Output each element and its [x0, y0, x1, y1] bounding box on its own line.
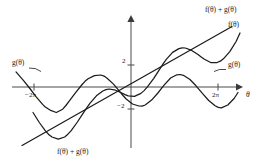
label-g-left: g(θ) [12, 59, 24, 67]
x-tick-label-2pi: 2π [212, 92, 219, 99]
label-f-plus-g-top: f(θ) + g(θ) [205, 6, 236, 14]
y-tick-label-2: 2 [122, 58, 126, 65]
y-tick-label-neg-2: −2 [117, 103, 124, 110]
curve-g [16, 72, 238, 113]
x-axis-label: θ [246, 91, 250, 99]
curve-f [22, 27, 232, 146]
curve-f-plus-g [33, 33, 240, 139]
leader-line-g-left [29, 68, 41, 72]
x-axis-arrow-icon [236, 83, 243, 90]
label-g-right: g(θ) [228, 61, 240, 69]
plot-canvas [0, 0, 257, 165]
x-tick-label-neg-2pi: −2π [25, 92, 36, 99]
y-axis-arrow-icon [127, 15, 134, 22]
leader-line-g-right [214, 69, 226, 71]
function-plot-figure: f(θ) + g(θ) f(θ) g(θ) g(θ) f(θ) + g(θ) −… [0, 0, 257, 165]
label-f-top: f(θ) [228, 21, 239, 29]
label-f-plus-g-bottom: f(θ) + g(θ) [57, 148, 88, 156]
